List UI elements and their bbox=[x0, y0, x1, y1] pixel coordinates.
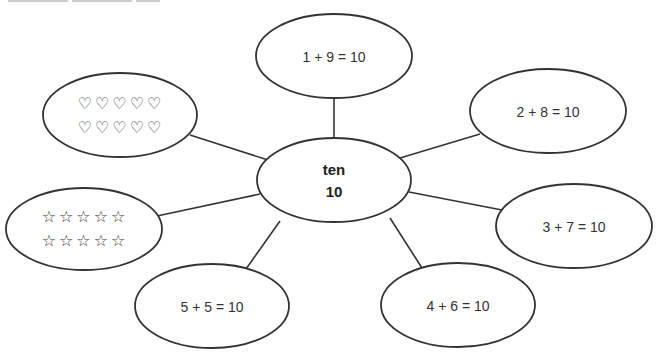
center-word: ten bbox=[323, 159, 346, 181]
star-outline-icon: ☆☆☆☆☆ bbox=[42, 233, 129, 249]
connector-bottom-right bbox=[390, 218, 422, 268]
connector-stars bbox=[157, 194, 260, 216]
ellipse-stars bbox=[6, 188, 162, 270]
connector-right-top bbox=[400, 134, 480, 158]
center-node: ten 10 bbox=[323, 159, 346, 203]
connector-bottom-left bbox=[246, 221, 280, 269]
heart-outline-icon: ♡♡♡♡♡ bbox=[78, 120, 165, 136]
ellipse-hearts bbox=[43, 73, 197, 157]
connector-right-middle bbox=[409, 192, 502, 210]
node-label-bottom-right: 4 + 6 = 10 bbox=[426, 298, 489, 314]
node-label-right-top: 2 + 8 = 10 bbox=[516, 104, 579, 120]
center-number: 10 bbox=[323, 181, 346, 203]
node-label-right-middle: 3 + 7 = 10 bbox=[542, 219, 605, 235]
star-outline-icon: ☆☆☆☆☆ bbox=[42, 209, 129, 225]
node-label-bottom-left: 5 + 5 = 10 bbox=[180, 299, 243, 315]
heart-outline-icon: ♡♡♡♡♡ bbox=[78, 96, 165, 112]
node-label-top: 1 + 9 = 10 bbox=[302, 49, 365, 65]
connector-hearts bbox=[190, 135, 268, 160]
